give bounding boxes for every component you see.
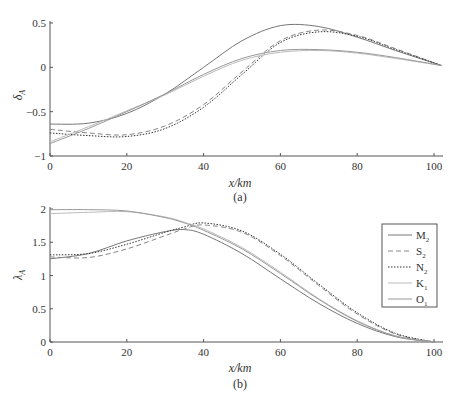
series-k1-line: [50, 211, 434, 342]
y-tick-label: 1: [41, 270, 47, 282]
x-tick-label: 40: [198, 160, 210, 172]
x-tick-label: 100: [426, 346, 443, 358]
y-tick-label: 2: [41, 203, 47, 215]
series-o1-line: [50, 210, 434, 342]
legend: M2S2N2K1O1: [382, 224, 437, 308]
tidal-chart: 0204060801000.50−0.5−1 02040608010021.51…: [0, 0, 460, 395]
y-tick-label: 0: [41, 61, 47, 73]
x-tick-label: 0: [47, 346, 53, 358]
panel-a-caption: (a): [233, 190, 246, 204]
svg-text:λA: λA: [11, 270, 27, 281]
x-tick-label: 60: [275, 160, 287, 172]
panel-a-ylabel: δA: [11, 90, 27, 101]
series-m2-line: [50, 24, 442, 124]
y-tick-label: −1: [34, 150, 46, 162]
x-tick-label: 60: [275, 346, 287, 358]
svg-text:δA: δA: [11, 90, 27, 101]
x-tick-label: 0: [47, 160, 53, 172]
y-tick-label: 0.5: [32, 303, 46, 315]
x-tick-label: 20: [121, 346, 133, 358]
y-tick-label: 0: [41, 336, 47, 348]
x-tick-label: 100: [426, 160, 443, 172]
y-tick-label: −0.5: [26, 106, 46, 118]
series-n2-line: [50, 32, 442, 137]
panel-b-caption: (b): [233, 377, 247, 391]
series-k1-line: [50, 50, 442, 141]
x-tick-label: 20: [121, 160, 133, 172]
panel-b: 02040608010021.510.50: [32, 203, 443, 358]
series-n2-line: [50, 223, 434, 342]
panel-a-xlabel: x/km: [228, 176, 252, 190]
x-tick-label: 80: [352, 160, 364, 172]
panel-b-xlabel: x/km: [228, 361, 252, 375]
x-tick-label: 80: [352, 346, 364, 358]
panel-a: 0204060801000.50−0.5−1: [26, 17, 443, 172]
x-tick-label: 40: [198, 346, 210, 358]
y-tick-label: 1.5: [32, 236, 46, 248]
panel-b-ylabel: λA: [11, 270, 27, 281]
series-o1-line: [50, 49, 442, 143]
y-tick-label: 0.5: [32, 17, 46, 29]
